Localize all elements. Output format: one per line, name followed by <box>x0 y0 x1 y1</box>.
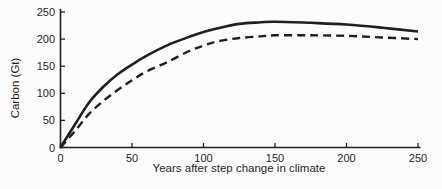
solid-line-series <box>61 22 419 148</box>
y-tick-label: 0 <box>49 142 55 154</box>
carbon-step-change-figure: 050100150200250050100150200250 Carbon (G… <box>0 0 442 189</box>
y-tick-label: 200 <box>37 33 55 45</box>
y-tick-label: 50 <box>43 114 55 126</box>
dashed-line-series <box>61 35 419 147</box>
y-axis-title: Carbon (Gt) <box>8 20 22 156</box>
y-tick-label: 100 <box>37 87 55 99</box>
x-axis-title: Years after step change in climate <box>60 162 418 174</box>
chart-canvas: 050100150200250050100150200250 <box>0 0 442 189</box>
y-tick-label: 150 <box>37 60 55 72</box>
y-tick-label: 250 <box>37 6 55 18</box>
